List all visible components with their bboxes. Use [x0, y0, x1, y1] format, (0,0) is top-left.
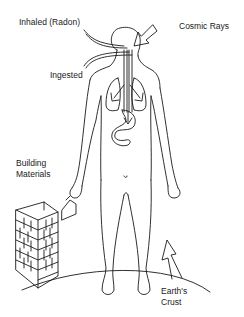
cosmic-rays-arrow: [134, 25, 157, 46]
earths-crust-arrow: [162, 240, 182, 279]
label-ingested: Ingested: [50, 70, 83, 80]
lung-arrow-left: [111, 85, 124, 101]
ingested-path: [84, 52, 132, 68]
stomach-intestines: [112, 110, 136, 146]
label-inhaled-radon: Inhaled (Radon): [19, 17, 80, 27]
building-materials-arrow: [62, 196, 76, 220]
label-earths-crust-1: Earth's: [161, 286, 187, 296]
label-building-materials-2: Materials: [16, 169, 50, 179]
inhaled-path: [84, 30, 127, 48]
label-cosmic-rays: Cosmic Rays: [179, 21, 229, 31]
label-building-materials-1: Building: [16, 158, 46, 168]
airway-tubes: [124, 50, 132, 112]
brick-wall-icon: [16, 202, 58, 288]
label-earths-crust-2: Crust: [161, 297, 181, 307]
lungs: [106, 78, 146, 111]
